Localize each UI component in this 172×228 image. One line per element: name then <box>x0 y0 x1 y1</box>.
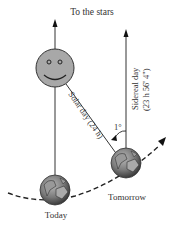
earth-tomorrow-icon <box>111 148 141 178</box>
solar-day-label: Solar day (24 h) <box>66 89 105 140</box>
arrow-up-icon <box>53 19 58 27</box>
arrow-up-icon <box>124 29 129 37</box>
sidereal-vs-solar-day-diagram: To the stars 1° Solar day (24 h) Siderea… <box>0 0 172 228</box>
angle-label: 1° <box>114 122 122 132</box>
smiley-sun-icon <box>36 49 74 87</box>
angle-arrowhead-icon <box>111 135 117 141</box>
title-to-the-stars: To the stars <box>70 7 114 17</box>
today-label: Today <box>45 210 68 220</box>
orbit-arrowhead-icon <box>158 137 166 146</box>
sidereal-day-duration-label: (23 h 56' 4") <box>141 68 151 111</box>
earth-today-icon <box>40 175 70 205</box>
sidereal-day-label: Sidereal day <box>130 67 140 110</box>
tomorrow-label: Tomorrow <box>108 192 146 202</box>
